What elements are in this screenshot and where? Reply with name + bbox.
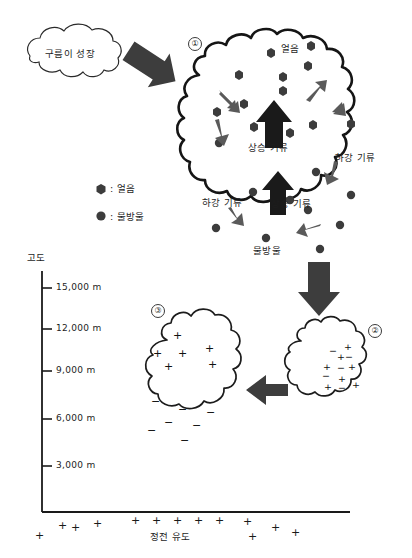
legend-droplet-icon — [96, 211, 105, 220]
axis-tick-6000: 6,000 m — [56, 414, 96, 423]
axis-title: 고도 — [27, 253, 46, 263]
ground-charge: + — [131, 515, 140, 526]
ground-charge: + — [243, 516, 252, 527]
diagram-vector-layer — [0, 0, 412, 558]
downdraft-label-right: 하강 기류 — [335, 153, 376, 163]
legend-markers — [96, 184, 105, 221]
cloud-two-charge-positive: + — [324, 382, 332, 392]
cloud-three-charge-positive: + — [173, 330, 182, 341]
cloud-three-charge-positive: + — [164, 361, 173, 372]
ground-charge: + — [271, 522, 280, 533]
legend-ice-label: : 얼음 — [110, 184, 135, 194]
ground-charge: + — [71, 522, 80, 533]
updraft-label-upper: 상승 기류 — [248, 143, 289, 153]
ground-charge: + — [93, 518, 102, 529]
arrow-main-to-cloud-two — [298, 262, 340, 316]
ground-charge: + — [291, 527, 300, 538]
cloud-three-charge-negative: − — [164, 417, 173, 428]
cloud-two-charge-positive: + — [337, 352, 345, 362]
legend-droplet-label: : 물방울 — [110, 212, 145, 222]
growing-cloud-label: 구름이 성장 — [45, 49, 95, 59]
cloud-three-charge-negative: − — [178, 404, 187, 415]
downdraft-label-left: 하강 기류 — [202, 198, 243, 208]
ground-induction-label: 정전 유도 — [150, 532, 191, 542]
ground-charge: + — [248, 531, 257, 542]
step-marker-one: ① — [188, 37, 202, 51]
main-cloud-droplet-label: 물방울 — [253, 246, 281, 256]
axis-tick-9000: 9,000 m — [56, 366, 96, 375]
cloud-three-charge-positive: + — [153, 348, 162, 359]
cloud-three-charge-negative: − — [206, 407, 215, 418]
axis-tick-3000: 3,000 m — [56, 461, 96, 470]
cloud-three-charge-negative: − — [151, 396, 160, 407]
updraft-label-lower: 상승 기류 — [271, 199, 312, 209]
ground-charge: + — [35, 530, 44, 541]
ground-charge: + — [215, 515, 224, 526]
cloud-two-charge-negative: − — [322, 371, 330, 381]
cloud-two-charge-positive: + — [348, 362, 356, 372]
cloud-three-charge-negative: − — [147, 425, 156, 436]
cloud-two-charge-positive: + — [352, 380, 360, 390]
cloud-two-charge-negative: − — [337, 363, 345, 373]
axis-tick-12000: 12,000 m — [56, 324, 102, 333]
ground-charge: + — [152, 515, 161, 526]
arrow-cloud-to-main — [118, 34, 187, 98]
cloud-three-charge-positive: + — [178, 348, 187, 359]
step-marker-three: ③ — [151, 304, 165, 318]
legend-ice-icon — [97, 184, 106, 194]
axis-tick-15000: 15,000 m — [56, 283, 102, 292]
step-marker-two: ② — [368, 324, 382, 338]
main-cloud-ice-label: 얼음 — [281, 44, 300, 54]
ground-charge: + — [173, 515, 182, 526]
cloud-three-charge-negative: − — [180, 435, 189, 446]
arrow-cloud-two-to-three — [246, 375, 288, 405]
ground-charge: + — [58, 520, 67, 531]
cloud-three-charge-negative: − — [192, 420, 201, 431]
ground-charge: + — [194, 515, 203, 526]
cloud-two-charge-negative: − — [338, 383, 346, 393]
cloud-three-charge-positive: + — [205, 343, 214, 354]
cloud-three-charge-positive: + — [208, 359, 217, 370]
diagram-canvas: 구름이 성장 ① 얼음 상승 기류 하강 기류 하강 기류 상승 기류 물방울 … — [0, 0, 412, 558]
cloud-two-charge-negative: − — [329, 346, 337, 356]
